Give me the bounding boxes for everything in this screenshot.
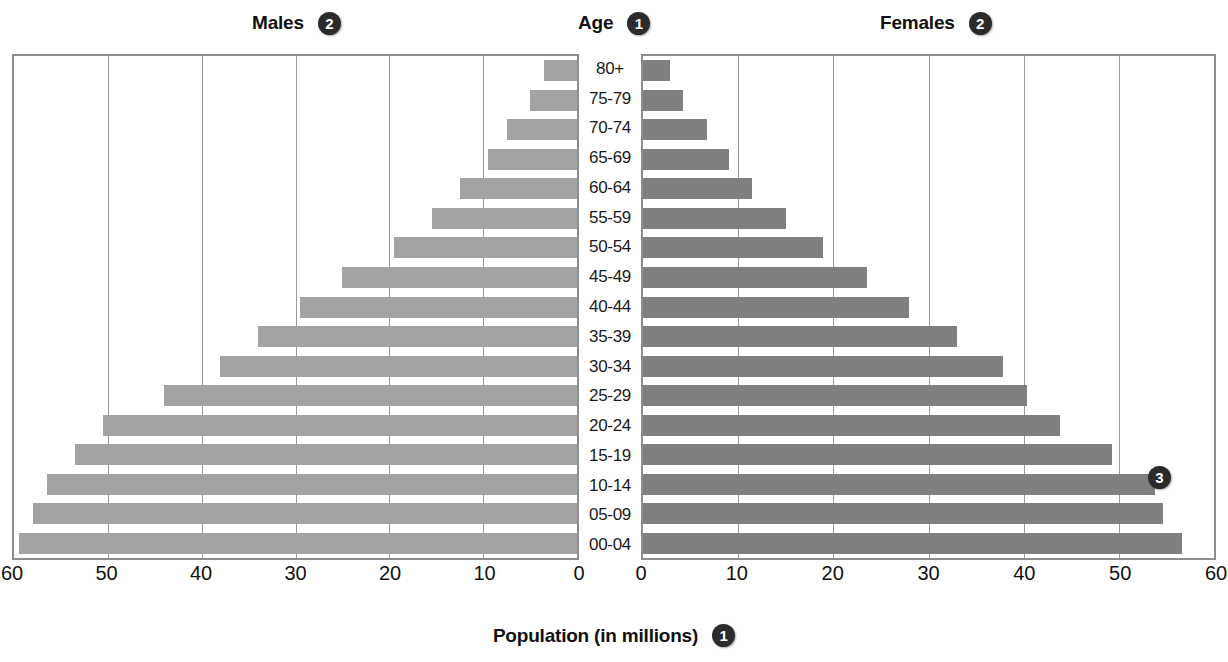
axis-tick-label: 60	[1, 562, 23, 585]
bar-males-00-04	[19, 533, 577, 554]
bar-females-15-19	[643, 444, 1112, 465]
axis-tick-label: 30	[917, 562, 939, 585]
bar-males-65-69	[488, 149, 577, 170]
bar-row	[14, 174, 577, 204]
axis-tick-label: 0	[635, 562, 646, 585]
bar-row	[14, 115, 577, 145]
age-group-label: 50-54	[579, 233, 641, 263]
bar-females-25-29	[643, 385, 1027, 406]
x-axis-title-text: Population (in millions)	[493, 625, 698, 647]
bar-row	[643, 233, 1214, 263]
callout-badge-1-age: 1	[627, 12, 650, 35]
callout-badge-3-bars: 3	[1148, 466, 1171, 489]
bar-males-35-39	[258, 326, 577, 347]
age-group-label: 10-14	[579, 471, 641, 501]
bar-row	[643, 204, 1214, 234]
age-group-label: 70-74	[579, 114, 641, 144]
males-group-label: Males 2	[252, 8, 341, 38]
bar-males-40-44	[300, 297, 577, 318]
bar-row	[14, 322, 577, 352]
axis-tick-label: 20	[822, 562, 844, 585]
age-group-label: 75-79	[579, 84, 641, 114]
bar-females-70-74	[643, 119, 707, 140]
age-group-label: 20-24	[579, 411, 641, 441]
bar-row	[14, 440, 577, 470]
bar-row	[14, 145, 577, 175]
females-label-text: Females	[880, 12, 955, 34]
bar-row	[643, 86, 1214, 116]
age-group-label: 25-29	[579, 381, 641, 411]
bar-males-10-14	[47, 474, 577, 495]
bar-row	[14, 204, 577, 234]
callout-badge-2-males: 2	[318, 12, 341, 35]
bar-males-60-64	[460, 178, 577, 199]
age-label-text: Age	[578, 12, 613, 34]
bar-females-40-44	[643, 297, 909, 318]
bar-row	[14, 410, 577, 440]
age-group-label: 30-34	[579, 352, 641, 382]
bar-males-15-19	[75, 444, 577, 465]
bar-row	[643, 381, 1214, 411]
males-plot-panel	[12, 54, 579, 560]
bar-row	[14, 529, 577, 559]
age-group-label: 15-19	[579, 441, 641, 471]
bar-row	[643, 145, 1214, 175]
males-label-text: Males	[252, 12, 304, 34]
bar-row	[14, 56, 577, 86]
bar-row	[14, 351, 577, 381]
age-column-label: Age 1	[578, 8, 650, 38]
females-value-axis: 0102030405060	[641, 562, 1216, 590]
axis-tick-label: 40	[1013, 562, 1035, 585]
females-bar-series	[643, 56, 1214, 558]
bar-row	[643, 56, 1214, 86]
bar-row	[14, 469, 577, 499]
bar-females-35-39	[643, 326, 957, 347]
bar-row	[643, 351, 1214, 381]
bar-males-30-34	[220, 356, 577, 377]
bar-row	[643, 499, 1214, 529]
bar-row	[643, 469, 1214, 499]
bar-row	[643, 292, 1214, 322]
bar-females-05-09	[643, 503, 1163, 524]
axis-tick-label: 20	[379, 562, 401, 585]
bar-females-55-59	[643, 208, 786, 229]
bar-males-75-79	[530, 90, 577, 111]
age-group-label: 80+	[579, 54, 641, 84]
bar-males-45-49	[342, 267, 577, 288]
population-pyramid-chart: Males 2 Age 1 Females 2 80+75-7970-7465-…	[0, 0, 1228, 662]
axis-tick-label: 0	[573, 562, 584, 585]
callout-badge-1-axis-title: 1	[712, 624, 735, 647]
females-plot-panel	[641, 54, 1216, 560]
bar-females-00-04	[643, 533, 1182, 554]
bar-row	[14, 499, 577, 529]
bar-row	[643, 440, 1214, 470]
axis-tick-label: 10	[473, 562, 495, 585]
age-group-label: 45-49	[579, 262, 641, 292]
x-axis-title: Population (in millions) 1	[0, 624, 1228, 647]
bar-row	[643, 410, 1214, 440]
bar-males-05-09	[33, 503, 577, 524]
bar-females-75-79	[643, 90, 683, 111]
bar-females-10-14	[643, 474, 1155, 495]
bar-females-60-64	[643, 178, 752, 199]
axis-tick-label: 10	[726, 562, 748, 585]
age-group-label: 00-04	[579, 530, 641, 560]
bar-females-80+	[643, 60, 670, 81]
age-group-label: 35-39	[579, 322, 641, 352]
axis-tick-label: 30	[284, 562, 306, 585]
bar-females-30-34	[643, 356, 1003, 377]
axis-tick-label: 40	[190, 562, 212, 585]
bar-males-20-24	[103, 415, 577, 436]
bar-males-50-54	[394, 237, 577, 258]
bar-females-45-49	[643, 267, 867, 288]
bar-females-65-69	[643, 149, 729, 170]
bar-row	[643, 529, 1214, 559]
axis-tick-label: 50	[1109, 562, 1131, 585]
axis-tick-label: 60	[1205, 562, 1227, 585]
females-group-label: Females 2	[880, 8, 992, 38]
bar-row	[14, 292, 577, 322]
bar-females-50-54	[643, 237, 823, 258]
bar-row	[643, 115, 1214, 145]
age-group-label: 40-44	[579, 292, 641, 322]
bar-row	[643, 174, 1214, 204]
